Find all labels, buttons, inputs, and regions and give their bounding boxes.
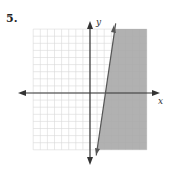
shaded-region <box>97 29 147 150</box>
y-axis-down-arrow-icon <box>87 157 93 165</box>
inequality-graph: y x <box>0 0 170 173</box>
y-axis-up-arrow-icon <box>87 21 93 29</box>
y-axis-label: y <box>95 17 102 27</box>
x-axis-label: x <box>158 96 163 106</box>
boundary-bottom-arrow-icon <box>95 148 100 155</box>
x-axis-left-arrow-icon <box>18 90 26 96</box>
